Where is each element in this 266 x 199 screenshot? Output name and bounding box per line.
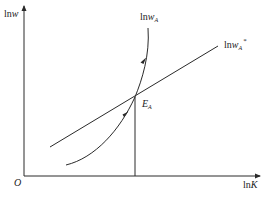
curve-arrow-lower-icon — [123, 112, 129, 118]
line-label: lnwA* — [224, 37, 247, 51]
diagram-canvas: lnw O lnK lnwA lnwA* EA — [0, 0, 266, 199]
curve-lnwA — [66, 28, 148, 165]
origin-label: O — [14, 177, 21, 188]
curve-label: lnwA — [140, 11, 158, 23]
y-axis-label: lnw — [4, 8, 19, 19]
line-lnwA-star — [50, 46, 218, 147]
equilibrium-point-label: EA — [141, 98, 152, 110]
x-axis-label: lnK — [243, 179, 259, 190]
